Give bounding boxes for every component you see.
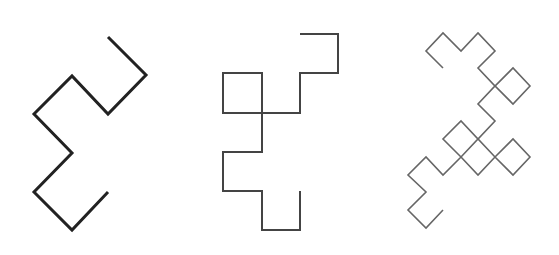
dragon-curve-iteration-4 [223, 34, 338, 230]
dragon-curve-iteration-5 [408, 33, 530, 228]
dragon-curve-diagram [0, 0, 559, 255]
dragon-curve-iteration-3 [34, 37, 146, 230]
